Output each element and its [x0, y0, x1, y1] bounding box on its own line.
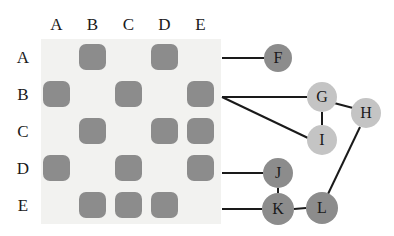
- matrix-cell-ed: [151, 192, 178, 218]
- matrix-cell-da: [43, 155, 70, 181]
- graph-edge-row-b-i: [222, 97, 308, 138]
- matrix-row-header-d: D: [13, 160, 33, 177]
- matrix-row-header-e: E: [13, 197, 33, 214]
- graph-node-l[interactable]: L: [306, 192, 338, 224]
- graph-node-i[interactable]: I: [307, 125, 337, 155]
- graph-node-g[interactable]: G: [307, 82, 337, 112]
- matrix-cell-ab: [79, 44, 106, 70]
- graph-node-j[interactable]: J: [263, 158, 293, 188]
- matrix-column-header-b: B: [83, 16, 103, 33]
- matrix-graph-figure: ABCDE ABCDE FGHIJKL: [0, 0, 394, 236]
- graph-node-k[interactable]: K: [262, 193, 294, 225]
- matrix-cell-ad: [151, 44, 178, 70]
- graph-node-label: J: [275, 164, 281, 182]
- matrix-cell-cd: [151, 118, 178, 144]
- matrix-row-header-b: B: [13, 86, 33, 103]
- graph-node-label: F: [274, 49, 283, 67]
- adjacency-matrix: [41, 39, 221, 224]
- graph-node-label: H: [360, 104, 372, 122]
- matrix-cell-ba: [43, 81, 70, 107]
- matrix-row-header-c: C: [13, 123, 33, 140]
- matrix-cell-ce: [187, 118, 214, 144]
- graph-edge-g-h: [334, 103, 353, 108]
- graph-node-label: I: [319, 131, 324, 149]
- matrix-row-header-a: A: [13, 49, 33, 66]
- matrix-cell-eb: [79, 192, 106, 218]
- matrix-column-header-c: C: [119, 16, 139, 33]
- matrix-cell-ec: [115, 192, 142, 218]
- matrix-column-header-d: D: [155, 16, 175, 33]
- matrix-column-header-e: E: [191, 16, 211, 33]
- matrix-cell-de: [187, 155, 214, 181]
- matrix-cell-bc: [115, 81, 142, 107]
- graph-edge-k-l: [294, 208, 306, 209]
- graph-node-label: G: [316, 88, 328, 106]
- graph-node-f[interactable]: F: [264, 44, 292, 72]
- matrix-cell-be: [187, 81, 214, 107]
- matrix-cell-cb: [79, 118, 106, 144]
- graph-node-label: L: [317, 199, 327, 217]
- matrix-column-header-a: A: [47, 16, 67, 33]
- graph-node-h[interactable]: H: [351, 98, 381, 128]
- matrix-cell-dc: [115, 155, 142, 181]
- graph-node-label: K: [272, 200, 284, 218]
